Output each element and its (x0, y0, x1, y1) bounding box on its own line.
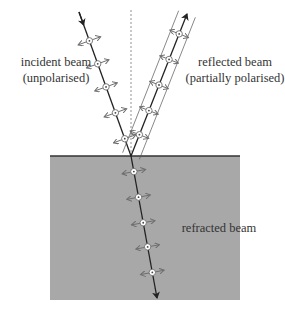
reflected-polarisation-marker (140, 107, 159, 114)
reflected-polarisation-marker (160, 56, 179, 63)
incident-polarisation-marker (113, 135, 136, 143)
incident-beam-label-line2: (unpolarised) (2, 70, 110, 86)
reflected-beam-label-line1: reflected beam (185, 54, 285, 70)
reflected-polarisation-marker (150, 81, 169, 88)
incident-beam-label-line1: incident beam (2, 54, 110, 70)
reflected-beam-label-line2: (partially polarised) (185, 70, 285, 86)
incident-arrow-icon (79, 12, 84, 25)
reflected-beam-label: reflected beam (partially polarised) (185, 54, 285, 86)
incident-beam-label: incident beam (unpolarised) (2, 54, 110, 86)
refracted-beam-label: refracted beam (164, 220, 274, 236)
reflected-polarisation-marker (170, 30, 189, 37)
reflection-refraction-diagram (0, 0, 285, 312)
incident-polarisation-marker (104, 109, 127, 117)
reflected-polarisation-marker (130, 131, 149, 138)
incident-polarisation-marker (78, 37, 101, 45)
diagram-canvas: incident beam (unpolarised) reflected be… (0, 0, 285, 312)
